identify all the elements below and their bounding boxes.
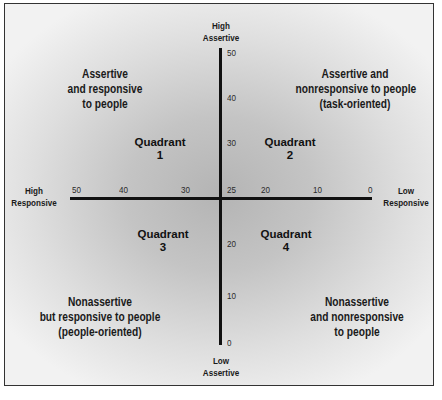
axis-label-line: Assertive: [196, 32, 247, 44]
axis-label-line: Responsive: [9, 197, 58, 209]
axis-label-line: High: [196, 20, 247, 32]
quadrant-3-title: Quadrant 3: [128, 228, 198, 254]
v-tick: 20: [227, 239, 236, 249]
v-tick: 10: [227, 291, 236, 301]
description-line: (task-oriented): [296, 97, 415, 112]
quadrant-3-description: Nonassertive but responsive to people (p…: [36, 295, 164, 340]
v-tick: 50: [227, 48, 236, 58]
description-line: Nonassertive: [306, 295, 408, 310]
description-line: (people-oriented): [36, 325, 164, 340]
diagram-frame: High Assertive Low Assertive High Respon…: [4, 3, 434, 386]
axis-label-line: Assertive: [196, 367, 247, 379]
v-tick: 40: [227, 93, 236, 103]
h-tick: 20: [261, 185, 270, 195]
axis-label-line: High: [9, 185, 58, 197]
description-line: and nonresponsive: [306, 310, 408, 325]
quadrant-2-title: Quadrant 2: [255, 136, 325, 162]
quadrant-number: 4: [251, 241, 321, 254]
description-line: to people: [306, 325, 408, 340]
axis-label-line: Low: [381, 185, 430, 197]
quadrant-label: Quadrant: [255, 136, 325, 149]
h-tick: 40: [119, 185, 128, 195]
h-tick: 0: [368, 185, 373, 195]
quadrant-2-description: Assertive and nonresponsive to people (t…: [296, 67, 415, 112]
v-tick: 0: [227, 338, 232, 348]
quadrant-1-title: Quadrant 1: [125, 136, 195, 162]
description-line: nonresponsive to people: [296, 82, 415, 97]
high-responsive-label: High Responsive: [9, 185, 58, 209]
low-responsive-label: Low Responsive: [381, 185, 430, 209]
quadrant-number: 2: [255, 149, 325, 162]
h-tick: 30: [181, 185, 190, 195]
description-line: and responsive: [54, 82, 156, 97]
v-tick: 25: [227, 185, 236, 195]
quadrant-number: 1: [125, 149, 195, 162]
quadrant-label: Quadrant: [125, 136, 195, 149]
description-line: Assertive: [54, 67, 156, 82]
description-line: Assertive and: [296, 67, 415, 82]
h-tick: 10: [313, 185, 322, 195]
quadrant-label: Quadrant: [251, 228, 321, 241]
description-line: but responsive to people: [36, 310, 164, 325]
description-line: Nonassertive: [36, 295, 164, 310]
high-assertive-label: High Assertive: [196, 20, 247, 44]
h-tick: 50: [72, 185, 81, 195]
quadrant-label: Quadrant: [128, 228, 198, 241]
assertive-axis: [219, 48, 222, 345]
axis-label-line: Low: [196, 355, 247, 367]
quadrant-1-description: Assertive and responsive to people: [54, 67, 156, 112]
low-assertive-label: Low Assertive: [196, 355, 247, 379]
quadrant-4-title: Quadrant 4: [251, 228, 321, 254]
axis-label-line: Responsive: [381, 197, 430, 209]
description-line: to people: [54, 97, 156, 112]
quadrant-number: 3: [128, 241, 198, 254]
quadrant-4-description: Nonassertive and nonresponsive to people: [306, 295, 408, 340]
v-tick: 30: [227, 138, 236, 148]
